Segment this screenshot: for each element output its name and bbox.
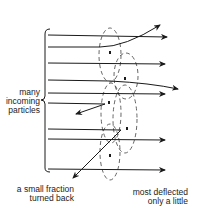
nuclei [108, 51, 128, 157]
scattering-diagram: many incoming particles a small fraction… [0, 0, 200, 210]
label-deflected: most deflected only a little [120, 188, 188, 206]
label-line: only a little [120, 197, 188, 206]
particle-paths [48, 25, 178, 178]
bracket [41, 29, 50, 172]
label-turned-back: a small fraction turned back [0, 185, 74, 203]
label-line: particles [0, 106, 40, 115]
label-incoming: many incoming particles [0, 88, 40, 115]
label-line: turned back [0, 194, 74, 203]
